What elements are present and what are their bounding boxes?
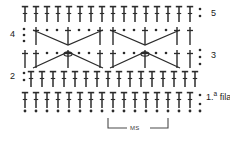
row-label-5: 5 [211,9,216,18]
crochet-chart-diagram: 5 4 3 2 1.a fila MS [0,0,230,142]
row-1-right-chain-dots [199,94,202,106]
row-2-left-chain-dots [23,72,26,82]
row-5-right-chain-dots [199,8,202,18]
row-4-chevrons [33,30,180,45]
row-1-stitches [22,92,193,108]
row-3-chevrons [33,52,180,68]
pattern-svg [0,0,230,142]
foundation-chain-dots [24,110,202,113]
row-label-3: 3 [211,51,216,60]
row-5-stitches [22,6,193,22]
row-label-4: 4 [10,30,15,39]
row-label-1-number: 1. [206,92,214,102]
row-label-1: 1.a fila [206,91,230,102]
row-label-2: 2 [10,72,15,81]
repeat-bracket-label: MS [130,125,139,131]
row-4-picot-dots [46,29,168,32]
row-4-left-chain-dots [23,28,26,43]
row-label-1-word: fila [217,92,230,102]
row-3-right-chain-dots [199,49,202,66]
row-2-stitches [28,71,198,87]
